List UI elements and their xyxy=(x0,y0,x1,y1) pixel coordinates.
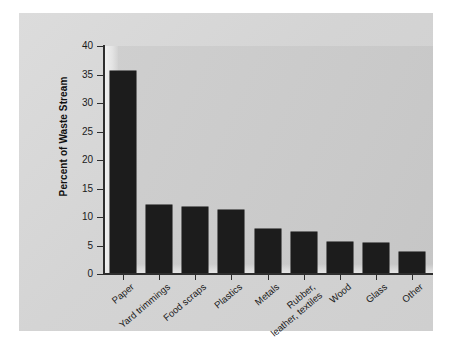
x-tick-mark xyxy=(123,275,124,280)
y-tick-label: 40 xyxy=(67,41,93,51)
bar xyxy=(255,229,281,274)
bar-slot xyxy=(289,46,319,274)
bar-slot xyxy=(397,46,427,274)
x-tick-label: Rubber,leather, textiles xyxy=(244,281,324,345)
bar xyxy=(399,252,425,274)
y-tick-label: 10 xyxy=(67,212,93,222)
bar-slot xyxy=(144,46,174,274)
y-tick-label: 5 xyxy=(67,241,93,251)
y-tick-label: 35 xyxy=(67,70,93,80)
x-tick-label: Paper xyxy=(110,281,136,306)
bar xyxy=(291,232,317,274)
x-tick-label: Metals xyxy=(253,281,282,307)
x-tick-mark xyxy=(376,275,377,280)
y-tick-label: 0 xyxy=(67,269,93,279)
x-tick-label: Wood xyxy=(327,281,353,305)
bar-slot xyxy=(361,46,391,274)
bar xyxy=(146,205,172,274)
bar-slot xyxy=(253,46,283,274)
y-tick-label: 25 xyxy=(67,127,93,137)
x-tick-mark xyxy=(412,275,413,280)
x-tick-mark xyxy=(268,275,269,280)
y-tick-label: 15 xyxy=(67,184,93,194)
x-tick-mark xyxy=(231,275,232,280)
x-tick-mark xyxy=(159,275,160,280)
x-tick-label: Other xyxy=(400,281,425,305)
bar-series xyxy=(104,46,433,274)
y-tick-label: 20 xyxy=(67,155,93,165)
chart-panel: Percent of Waste Stream 4035302520151050… xyxy=(19,13,433,331)
x-tick-label: Glass xyxy=(363,281,389,305)
bar xyxy=(110,71,136,274)
bar-slot xyxy=(216,46,246,274)
x-tick-mark xyxy=(304,275,305,280)
x-tick-mark xyxy=(340,275,341,280)
y-tick-label: 30 xyxy=(67,98,93,108)
bar xyxy=(327,242,353,274)
y-axis-line xyxy=(103,45,105,275)
bar-slot xyxy=(108,46,138,274)
bar xyxy=(182,207,208,274)
bar-slot xyxy=(325,46,355,274)
bar xyxy=(218,210,244,274)
bar-slot xyxy=(180,46,210,274)
plot-area xyxy=(104,46,433,274)
x-tick-mark xyxy=(195,275,196,280)
x-tick-label: Plastics xyxy=(212,281,244,310)
chart-figure: Percent of Waste Stream 4035302520151050… xyxy=(0,0,451,345)
bar xyxy=(363,243,389,274)
